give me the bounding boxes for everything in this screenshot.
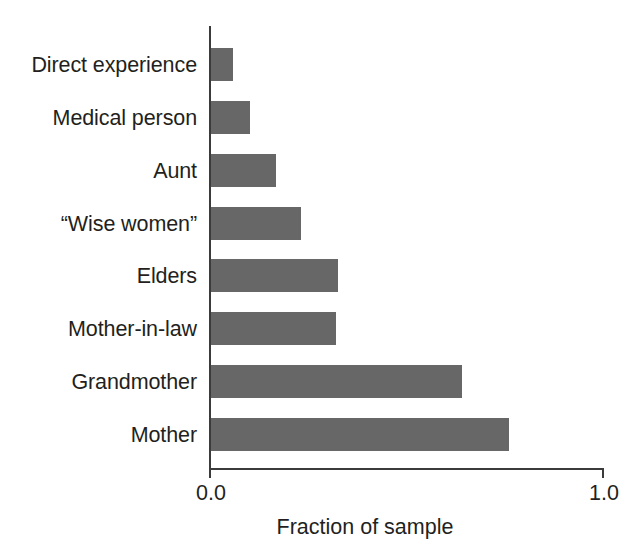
bar-rect <box>211 418 509 451</box>
plot-area: Direct experience Medical person Aunt “W… <box>0 0 634 556</box>
bar-row: Mother <box>0 418 634 451</box>
bar-label: “Wise women” <box>61 211 197 236</box>
bar-label: Medical person <box>53 105 197 130</box>
bar-label: Mother <box>131 422 197 447</box>
x-tick-label-0: 0.0 <box>196 481 226 506</box>
x-axis-title: Fraction of sample <box>277 515 454 540</box>
bar-rect <box>211 154 276 187</box>
bar-rect <box>211 207 301 240</box>
bar-row: Aunt <box>0 154 634 187</box>
bar-row: Mother-in-law <box>0 312 634 345</box>
x-axis-tick-0 <box>209 468 211 478</box>
bar-label: Mother-in-law <box>68 316 197 341</box>
bar-row: Medical person <box>0 101 634 134</box>
bar-rect <box>211 48 233 81</box>
x-axis-line <box>209 468 604 470</box>
bar-label: Grandmother <box>71 369 197 394</box>
bar-rect <box>211 101 250 134</box>
bar-rect <box>211 365 462 398</box>
x-axis-tick-1 <box>602 468 604 478</box>
bar-row: “Wise women” <box>0 207 634 240</box>
x-tick-label-1: 1.0 <box>589 481 619 506</box>
bar-row: Elders <box>0 259 634 292</box>
bar-label: Direct experience <box>31 52 197 77</box>
bar-rect <box>211 259 338 292</box>
x-axis-title-wrapper: Fraction of sample <box>0 515 634 540</box>
bar-chart: Direct experience Medical person Aunt “W… <box>0 0 634 556</box>
bar-row: Grandmother <box>0 365 634 398</box>
bar-rect <box>211 312 336 345</box>
bar-label: Aunt <box>153 158 197 183</box>
y-axis-line <box>209 26 211 470</box>
bar-row: Direct experience <box>0 48 634 81</box>
bar-label: Elders <box>137 263 197 288</box>
